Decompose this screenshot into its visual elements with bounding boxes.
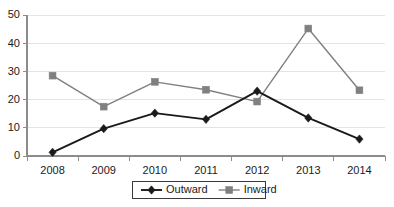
x-tick-label: 2011 bbox=[194, 164, 218, 176]
data-point-marker-square bbox=[226, 187, 233, 194]
data-point-marker-square bbox=[203, 86, 210, 93]
gridlines bbox=[27, 15, 385, 128]
legend-label: Inward bbox=[244, 183, 277, 195]
data-point-marker-square bbox=[49, 72, 56, 79]
chart-canvas: 01020304050 2008200920102011201220132014… bbox=[0, 0, 394, 207]
y-tick-label: 50 bbox=[8, 8, 20, 20]
x-tick-label: 2014 bbox=[347, 164, 371, 176]
data-point-marker-diamond bbox=[356, 135, 363, 143]
data-point-marker-square bbox=[254, 98, 261, 105]
data-point-marker-square bbox=[151, 78, 158, 85]
data-point-marker-diamond bbox=[305, 114, 312, 122]
x-tick-label: 2010 bbox=[143, 164, 167, 176]
x-axis-labels: 2008200920102011201220132014 bbox=[40, 164, 371, 176]
line-chart: 01020304050 2008200920102011201220132014… bbox=[0, 0, 394, 207]
series-outward bbox=[49, 87, 363, 157]
y-tick-label: 30 bbox=[8, 65, 20, 77]
data-point-marker-square bbox=[305, 25, 312, 32]
data-point-marker-diamond bbox=[49, 148, 56, 156]
chart-legend: OutwardInward bbox=[132, 182, 277, 199]
series-line bbox=[53, 29, 360, 107]
legend-label: Outward bbox=[166, 183, 208, 195]
data-point-marker-square bbox=[100, 103, 107, 110]
x-tick-label: 2009 bbox=[91, 164, 115, 176]
data-point-marker-diamond bbox=[202, 115, 209, 123]
series-inward bbox=[49, 25, 363, 110]
y-tick-label: 40 bbox=[8, 37, 20, 49]
data-point-marker-diamond bbox=[254, 87, 261, 95]
data-series bbox=[49, 25, 363, 156]
x-axis-ticks bbox=[27, 156, 385, 161]
x-tick-label: 2012 bbox=[245, 164, 269, 176]
y-tick-label: 10 bbox=[8, 121, 20, 133]
data-point-marker-square bbox=[356, 87, 363, 94]
x-tick-label: 2013 bbox=[296, 164, 320, 176]
data-point-marker-diamond bbox=[151, 109, 158, 117]
x-tick-label: 2008 bbox=[40, 164, 64, 176]
data-point-marker-diamond bbox=[100, 124, 107, 132]
y-tick-label: 0 bbox=[14, 149, 20, 161]
y-axis-labels: 01020304050 bbox=[8, 8, 20, 161]
y-tick-label: 20 bbox=[8, 93, 20, 105]
